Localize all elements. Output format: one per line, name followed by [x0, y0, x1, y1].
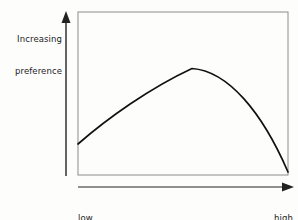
plot-frame [78, 12, 288, 175]
x-axis-high-label: high complexity [245, 192, 293, 220]
x-axis-arrowhead-icon [282, 183, 294, 192]
y-axis-label-line1: Increasing [0, 34, 62, 45]
x-axis-low-label-line1: low [78, 213, 126, 220]
x-axis-low-label: low complexity [78, 192, 126, 220]
x-axis-high-label-line1: high [245, 213, 293, 220]
y-axis-label: Increasing preference [0, 13, 62, 97]
figure-container: Increasing preference low complexity hig… [0, 0, 298, 220]
preference-curve [78, 69, 288, 173]
y-axis-arrowhead-icon [62, 11, 71, 23]
y-axis-label-line2: preference [0, 66, 62, 77]
